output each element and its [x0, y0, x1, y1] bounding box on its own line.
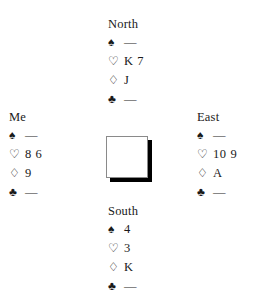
hand-east-spade-row: ♠ — [197, 126, 237, 145]
hand-west-label: Me [9, 110, 42, 125]
hand-south-spade-row: ♠ 4 [108, 220, 138, 239]
hand-east-label: East [197, 110, 237, 125]
hand-west-spade-row: ♠ — [9, 126, 42, 145]
heart-icon: ♡ [197, 145, 210, 164]
hand-south-label: South [108, 204, 138, 219]
hand-north-heart-cards: K 7 [121, 52, 144, 71]
hand-south: South ♠ 4 ♡ 3 ♢ K ♣ — [108, 204, 138, 296]
hand-east-spade-cards: — [210, 126, 226, 145]
hand-east-heart-cards: 10 9 [210, 145, 237, 164]
bridge-hand-diagram: North ♠ — ♡ K 7 ♢ J ♣ — Me ♠ — ♡ 8 6 ♢ [0, 0, 254, 305]
hand-west-club-cards: — [22, 183, 38, 202]
hand-south-heart-cards: 3 [121, 239, 131, 258]
hand-north-label: North [108, 17, 144, 32]
hand-north-heart-row: ♡ K 7 [108, 52, 144, 71]
hand-east-diamond-cards: A [210, 164, 223, 183]
hand-south-club-cards: — [121, 277, 137, 296]
club-icon: ♣ [197, 183, 210, 202]
hand-west-club-row: ♣ — [9, 183, 42, 202]
face-down-card [106, 136, 148, 178]
hand-south-diamond-row: ♢ K [108, 258, 138, 277]
hand-north-spade-row: ♠ — [108, 33, 144, 52]
hand-west: Me ♠ — ♡ 8 6 ♢ 9 ♣ — [9, 110, 42, 202]
heart-icon: ♡ [108, 52, 121, 71]
hand-south-club-row: ♣ — [108, 277, 138, 296]
diamond-icon: ♢ [197, 164, 210, 183]
diamond-icon: ♢ [108, 258, 121, 277]
diamond-icon: ♢ [9, 164, 22, 183]
club-icon: ♣ [108, 90, 121, 109]
hand-east-club-cards: — [210, 183, 226, 202]
hand-south-spade-cards: 4 [121, 220, 131, 239]
card-face [106, 136, 148, 178]
spade-icon: ♠ [108, 33, 121, 52]
spade-icon: ♠ [108, 220, 121, 239]
hand-north-club-cards: — [121, 90, 137, 109]
hand-west-heart-cards: 8 6 [22, 145, 42, 164]
club-icon: ♣ [9, 183, 22, 202]
hand-east-club-row: ♣ — [197, 183, 237, 202]
hand-north-diamond-row: ♢ J [108, 71, 144, 90]
hand-east-diamond-row: ♢ A [197, 164, 237, 183]
hand-west-diamond-cards: 9 [22, 164, 32, 183]
hand-north-club-row: ♣ — [108, 90, 144, 109]
hand-south-diamond-cards: K [121, 258, 134, 277]
diamond-icon: ♢ [108, 71, 121, 90]
hand-east: East ♠ — ♡ 10 9 ♢ A ♣ — [197, 110, 237, 202]
hand-south-heart-row: ♡ 3 [108, 239, 138, 258]
hand-north-spade-cards: — [121, 33, 137, 52]
heart-icon: ♡ [9, 145, 22, 164]
club-icon: ♣ [108, 277, 121, 296]
spade-icon: ♠ [9, 126, 22, 145]
spade-icon: ♠ [197, 126, 210, 145]
hand-north-diamond-cards: J [121, 71, 129, 90]
hand-east-heart-row: ♡ 10 9 [197, 145, 237, 164]
hand-west-diamond-row: ♢ 9 [9, 164, 42, 183]
heart-icon: ♡ [108, 239, 121, 258]
hand-north: North ♠ — ♡ K 7 ♢ J ♣ — [108, 17, 144, 109]
hand-west-heart-row: ♡ 8 6 [9, 145, 42, 164]
hand-west-spade-cards: — [22, 126, 38, 145]
